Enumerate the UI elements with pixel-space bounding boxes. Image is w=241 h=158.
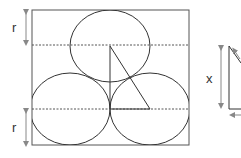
bottom-left-circle — [30, 73, 110, 145]
radius-label-bottom: r — [12, 120, 17, 135]
radius-label-top: r — [12, 20, 17, 35]
right-triangle — [110, 46, 150, 109]
three-circles-diagram: r r x — [0, 0, 241, 158]
height-label-x: x — [206, 71, 213, 86]
small-right-triangle — [229, 46, 241, 109]
